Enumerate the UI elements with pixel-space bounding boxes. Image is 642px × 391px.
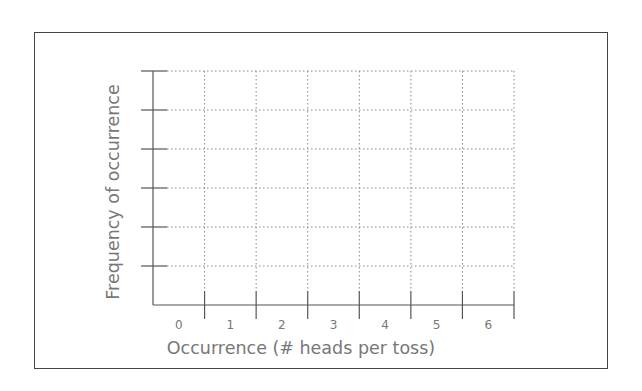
histogram-chart: 0123456Occurrence (# heads per toss)Freq…: [0, 0, 642, 391]
x-tick-label: 4: [381, 318, 389, 332]
x-tick-label: 1: [227, 318, 235, 332]
y-axis-title: Frequency of occurrence: [103, 84, 123, 299]
x-axis-title: Occurrence (# heads per toss): [167, 338, 435, 358]
x-tick-label: 0: [175, 318, 183, 332]
x-tick-label: 3: [330, 318, 338, 332]
x-tick-label: 2: [278, 318, 286, 332]
x-tick-label: 5: [433, 318, 441, 332]
x-tick-label: 6: [484, 318, 492, 332]
